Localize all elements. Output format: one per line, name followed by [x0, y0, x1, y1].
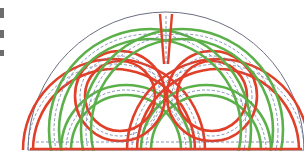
central-spike — [160, 14, 172, 64]
knot-diagram — [0, 0, 304, 164]
